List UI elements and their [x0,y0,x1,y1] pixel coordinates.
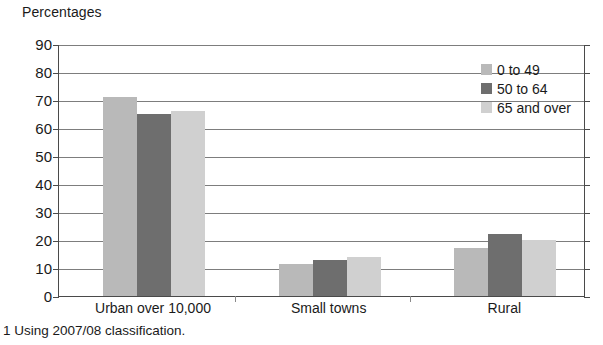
y-axis-tick-label: 70 [12,93,52,108]
bar [313,260,347,296]
y-axis-tick-label: 50 [12,149,52,164]
y-axis-tick [53,185,59,186]
bar [488,234,522,296]
x-axis-tick-label: Rural [404,299,603,317]
y-axis-labels: 9080706050403020100 [6,45,52,297]
y-axis-tick-label: 40 [12,177,52,192]
legend-swatch-icon [481,83,492,94]
y-axis-tick-label: 90 [12,37,52,52]
bar [279,264,313,296]
y-axis-tick-right [584,241,590,242]
y-axis-tick [53,269,59,270]
y-axis-tick-right [584,157,590,158]
y-axis-tick-label: 60 [12,121,52,136]
legend-label: 0 to 49 [497,63,540,77]
legend-label: 65 and over [497,101,571,115]
y-axis-tick [53,45,59,46]
bar [103,97,137,296]
legend-item: 0 to 49 [481,61,591,78]
bar [522,240,556,296]
x-axis-tick-label: Urban over 10,000 [53,299,253,317]
y-axis-tick [53,157,59,158]
bar [347,257,381,296]
y-axis-tick [53,213,59,214]
y-axis-tick [53,129,59,130]
y-axis-tick-label: 20 [12,233,52,248]
y-axis-tick [53,101,59,102]
x-axis-tick-label: Small towns [229,299,429,317]
legend-label: 50 to 64 [497,82,548,96]
bar-chart-figure: Percentages 9080706050403020100 Urban ov… [0,0,603,345]
y-axis-tick-label: 30 [12,205,52,220]
x-axis-labels: Urban over 10,000Small townsRural [58,299,585,321]
y-axis-tick [53,241,59,242]
bar [171,111,205,296]
y-axis-tick-label: 0 [12,289,52,304]
legend-swatch-icon [481,102,492,113]
y-axis-tick-label: 10 [12,261,52,276]
legend-item: 50 to 64 [481,80,591,97]
legend-swatch-icon [481,64,492,75]
y-axis-tick-right [584,213,590,214]
y-axis-tick [53,73,59,74]
legend-item: 65 and over [481,99,591,116]
bar-group [279,45,381,296]
y-axis-tick-right [584,297,590,298]
y-axis-tick-label: 80 [12,65,52,80]
chart-footnote: 1 Using 2007/08 classification. [3,322,185,339]
chart-title: Percentages [22,3,102,21]
y-axis-tick-right [584,45,590,46]
y-axis-tick-right [584,269,590,270]
y-axis-tick-right [584,129,590,130]
bar [454,248,488,296]
y-axis-tick-right [584,185,590,186]
bar-group [103,45,205,296]
bar [137,114,171,296]
chart-legend: 0 to 4950 to 6465 and over [481,61,591,118]
y-axis-tick [53,297,59,298]
